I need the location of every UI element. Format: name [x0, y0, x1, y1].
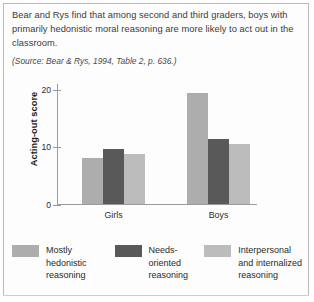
plot-area: 01020GirlsBoys	[57, 84, 257, 205]
y-tick-label: 0	[46, 200, 51, 210]
bar	[229, 144, 250, 205]
bar	[208, 139, 229, 204]
legend-item: Mostly hedonistic reasoning	[12, 244, 115, 282]
y-tick-0	[53, 205, 61, 206]
y-axis-line	[57, 84, 58, 205]
legend-swatch-icon	[115, 245, 142, 257]
legend-label: Mostly hedonistic reasoning	[46, 244, 87, 282]
bar-chart: Acting-out score 01020GirlsBoys	[10, 78, 260, 223]
figure-source: (Source: Bear & Rys, 1994, Table 2, p. 6…	[12, 55, 296, 67]
bar	[124, 154, 145, 204]
legend-label: Interpersonal and internalized reasoning	[238, 244, 302, 282]
caption-text: Bear and Rys find that among second and …	[12, 8, 296, 51]
legend-item: Interpersonal and internalized reasoning	[204, 244, 302, 282]
legend-swatch-icon	[204, 245, 231, 257]
y-tick-10	[53, 147, 61, 148]
y-axis-label: Acting-out score	[29, 77, 39, 181]
x-category-label: Boys	[209, 210, 229, 220]
bar	[82, 158, 103, 204]
figure-caption: Bear and Rys find that among second and …	[12, 8, 296, 51]
legend-swatch-icon	[12, 245, 39, 257]
x-axis-line	[57, 204, 257, 205]
y-tick-label: 10	[41, 142, 51, 152]
bar	[187, 93, 208, 204]
figure-page: Bear and Rys find that among second and …	[0, 0, 314, 302]
bottom-divider	[3, 295, 309, 296]
legend-label: Needs- oriented reasoning	[149, 244, 189, 282]
chart-legend: Mostly hedonistic reasoningNeeds- orient…	[12, 244, 302, 282]
legend-item: Needs- oriented reasoning	[115, 244, 205, 282]
x-category-label: Girls	[104, 210, 122, 220]
bar	[103, 149, 124, 204]
y-tick-20	[53, 90, 61, 91]
y-tick-label: 20	[41, 85, 51, 95]
